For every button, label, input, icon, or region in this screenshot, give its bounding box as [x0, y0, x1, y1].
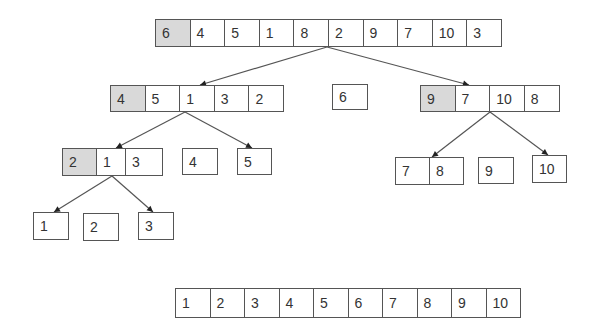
pivot-cell: 2 [62, 148, 97, 176]
array-cell: 9 [451, 288, 487, 318]
array-cell: 4 [182, 148, 218, 175]
array-cell: 3 [244, 288, 280, 318]
array-cell: 3 [214, 85, 250, 112]
array-right-right: 10 [532, 155, 567, 183]
array-cell: 2 [83, 213, 119, 241]
array-cell: 6 [348, 288, 384, 318]
array-cell: 5 [145, 85, 181, 112]
array-cell: 8 [417, 288, 453, 318]
pivot-cell: 9 [420, 85, 456, 112]
array-cell: 1 [33, 212, 69, 240]
array-cell: 8 [524, 85, 560, 112]
array-sorted: 12345678910 [175, 288, 521, 318]
array-left-right: 5 [237, 148, 272, 175]
arrow-line [116, 112, 185, 148]
array-cell: 1 [179, 85, 215, 112]
array-cell: 2 [328, 19, 364, 47]
arrow-line [200, 47, 327, 85]
array-right: 97108 [420, 85, 560, 112]
arrow-line [185, 112, 252, 148]
arrow-line [432, 112, 490, 157]
array-cell: 2 [248, 85, 284, 112]
array-right-left: 78 [395, 157, 464, 185]
array-cell: 7 [397, 19, 433, 47]
array-pivot-6: 6 [332, 84, 368, 110]
array-cell: 5 [313, 288, 349, 318]
array-left-left: 213 [62, 148, 163, 176]
array-cell: 10 [432, 19, 468, 47]
array-cell: 1 [96, 148, 126, 176]
array-cell: 3 [138, 212, 174, 240]
array-cell: 8 [429, 157, 464, 185]
array-cell: 3 [125, 148, 163, 176]
array-pivot-2: 2 [83, 213, 119, 241]
array-cell: 4 [190, 19, 226, 47]
array-root: 64518297103 [155, 19, 502, 47]
array-cell: 1 [259, 19, 295, 47]
array-cell: 4 [279, 288, 315, 318]
arrow-line [112, 176, 153, 212]
array-ll-right: 3 [138, 212, 174, 240]
array-ll-left: 1 [33, 212, 69, 240]
array-cell: 10 [532, 155, 567, 183]
array-left: 45132 [110, 85, 284, 112]
array-cell: 7 [455, 85, 491, 112]
array-cell: 8 [293, 19, 329, 47]
array-pivot-9: 9 [478, 157, 514, 184]
array-cell: 6 [332, 84, 368, 110]
pivot-cell: 4 [110, 85, 146, 112]
array-cell: 10 [486, 288, 522, 318]
array-cell: 5 [237, 148, 272, 175]
array-cell: 5 [224, 19, 260, 47]
arrow-line [54, 176, 112, 212]
array-pivot-4: 4 [182, 148, 218, 175]
array-cell: 3 [466, 19, 502, 47]
arrow-line [490, 112, 548, 155]
array-cell: 7 [395, 157, 430, 185]
array-cell: 10 [489, 85, 525, 112]
array-cell: 9 [363, 19, 399, 47]
array-cell: 9 [478, 157, 514, 184]
arrow-line [327, 47, 469, 85]
array-cell: 7 [382, 288, 418, 318]
array-cell: 2 [210, 288, 246, 318]
pivot-cell: 6 [155, 19, 191, 47]
array-cell: 1 [175, 288, 211, 318]
